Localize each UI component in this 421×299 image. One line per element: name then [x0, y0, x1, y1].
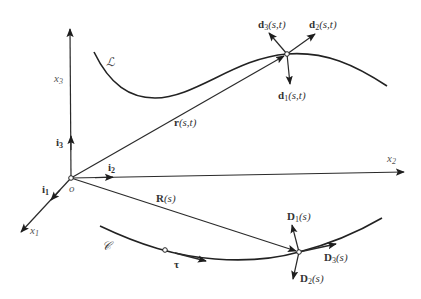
origin-point: [69, 176, 74, 181]
x3-label: x3: [53, 72, 63, 86]
D2-label: D2(s): [300, 272, 324, 286]
x2-axis: [71, 172, 404, 178]
D2-director: [293, 252, 299, 279]
d3-director: [269, 33, 287, 54]
d1-label: d1(s,t): [278, 89, 306, 103]
d1-director: [287, 54, 290, 84]
x1-label: x1: [29, 224, 39, 238]
i1-vector: [51, 190, 60, 200]
d2-label: d2(s,t): [309, 18, 337, 32]
x2-label: x2: [386, 152, 396, 166]
point-on-C: [297, 250, 302, 255]
d2-director: [287, 34, 315, 54]
curve-C-label: 𝒞: [102, 239, 114, 253]
origin-label: o: [69, 182, 75, 194]
point-tau-origin: [163, 248, 168, 253]
R-label: R(s): [156, 192, 176, 205]
d3-label: d3(s,t): [258, 18, 286, 32]
rod-kinematics-diagram: x3 x2 x1 i3 i2 i1 o ℒ 𝒞 r(s,t) R(s) τ d3…: [0, 0, 421, 299]
curve-L-label: ℒ: [106, 55, 115, 69]
i1-label: i1: [42, 183, 49, 197]
D3-label: D3(s): [324, 251, 348, 265]
curve-L: [94, 52, 387, 98]
D1-label: D1(s): [287, 210, 311, 224]
r-label: r(s,t): [174, 116, 197, 129]
x1-axis: [21, 178, 71, 232]
x3-axis: [70, 29, 71, 178]
i2-label: i2: [108, 161, 115, 175]
i3-label: i3: [56, 136, 63, 150]
point-on-L: [285, 52, 290, 57]
tau-label: τ: [174, 258, 179, 270]
D1-director: [292, 225, 299, 252]
